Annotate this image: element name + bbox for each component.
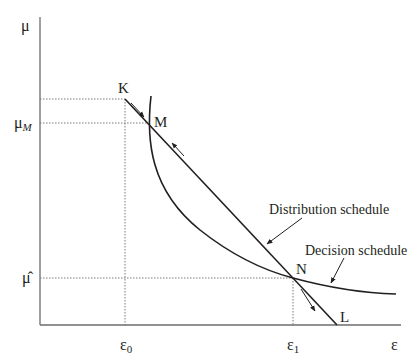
x-tick-eps1: ε1 [287,336,299,355]
point-l-label: L [340,309,349,325]
x-tick-eps0: ε0 [120,336,133,355]
y-tick-mu-m: μM [14,114,33,133]
decision-schedule-curve [149,96,396,294]
distribution-schedule-label: Distribution schedule [269,202,389,217]
point-m-label: M [154,114,167,130]
diagram-canvas: μ ε μM μ̂ ε0 ε1 K M N L Distribution sch… [0,0,416,364]
point-k-label: K [118,80,129,96]
decision-pointer-arrow [331,258,344,283]
x-axis-label: ε [391,336,398,353]
y-axis-label: μ [21,17,30,35]
y-tick-mu-hat: μ̂ [22,269,34,287]
distribution-pointer-arrow [267,218,302,244]
point-n-label: N [296,261,307,277]
decision-schedule-label: Decision schedule [305,243,407,258]
arrow-toward-m [172,143,184,156]
arrow-k-to-m [131,103,144,117]
guide-lines [40,99,293,325]
